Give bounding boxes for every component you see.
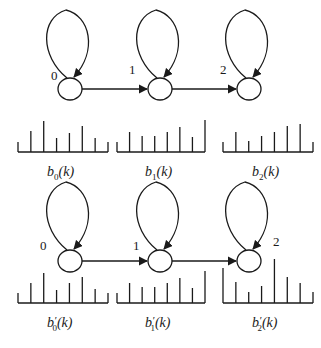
state-label-2: 2 [273,234,280,249]
state-node-1 [148,78,172,100]
histogram-caption: b1(k) [145,164,172,182]
state-label-0: 0 [40,238,47,253]
histogram-caption: b′0(k) [47,314,73,333]
histogram-caption: b0(k) [47,164,74,182]
state-node-0 [58,78,82,100]
histogram-caption: b′2(k) [252,314,278,333]
state-node-0 [58,250,82,272]
state-label-1: 1 [133,238,140,253]
self-loop-arrow-1 [137,10,179,78]
emission-histogram-modified-2: b′2(k) [223,259,313,333]
emission-histogram-original-2: b2(k) [223,124,313,182]
state-label-1: 1 [129,62,136,77]
self-loop-arrow-2 [226,10,268,78]
emission-histogram-modified-1: b′1(k) [117,271,205,333]
histogram-caption: b′1(k) [145,314,171,333]
chain-row-modified: 012b′0(k)b′1(k)b′2(k) [18,182,313,333]
histogram-caption: b2(k) [252,164,279,182]
state-label-2: 2 [220,62,227,77]
chain-row-original: 012b0(k)b1(k)b2(k) [18,10,313,182]
emission-histogram-original-1: b1(k) [117,120,205,182]
state-label-0: 0 [51,68,58,83]
state-node-2 [237,250,261,272]
state-node-2 [237,78,261,100]
hmm-diagram: 012b0(k)b1(k)b2(k)012b′0(k)b′1(k)b′2(k) [0,0,321,348]
emission-histogram-modified-0: b′0(k) [18,273,108,333]
self-loop-arrow-0 [47,182,89,250]
state-node-1 [148,250,172,272]
self-loop-arrow-1 [137,182,179,250]
emission-histogram-original-0: b0(k) [18,121,108,182]
self-loop-arrow-2 [226,182,268,250]
